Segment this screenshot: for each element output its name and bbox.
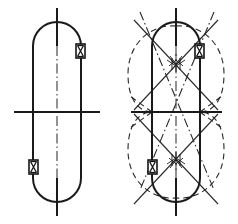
- radiate-right-down: [200, 112, 222, 128]
- figure-root: [0, 0, 238, 224]
- left-panel: [14, 8, 100, 216]
- left-marker-upper-right: [76, 44, 85, 58]
- drawing-canvas: [0, 0, 238, 224]
- right-upper-convergence-cluster: [167, 54, 185, 72]
- radiate-left-up: [130, 96, 152, 112]
- radiate-left-down: [130, 112, 152, 128]
- right-panel: [128, 8, 224, 216]
- left-marker-lower-left: [29, 160, 38, 174]
- radiate-right-up: [200, 96, 222, 112]
- right-marker-upper-right: [195, 44, 204, 58]
- right-marker-lower-left: [148, 160, 157, 174]
- right-lower-convergence-cluster: [167, 152, 185, 170]
